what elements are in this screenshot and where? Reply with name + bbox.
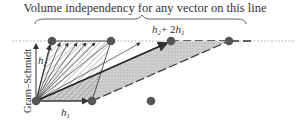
point bbox=[88, 97, 97, 106]
point bbox=[147, 97, 156, 106]
point bbox=[167, 37, 176, 46]
h1-label: h1 bbox=[61, 106, 70, 120]
gram-schmidt-label: Gram–Schmidt bbox=[22, 49, 33, 113]
point bbox=[107, 37, 116, 46]
h2-label: h2 bbox=[38, 54, 48, 68]
volume-diagram: h2+ 2h1 h2 h1 Gram–Schmidt bbox=[0, 0, 306, 126]
point bbox=[48, 37, 57, 46]
point bbox=[225, 37, 234, 46]
brace bbox=[35, 15, 246, 24]
sum-label: h2+ 2h1 bbox=[152, 23, 184, 37]
